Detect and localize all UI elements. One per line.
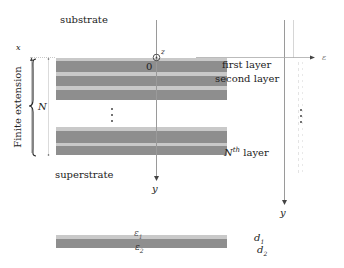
axis-z-label: z xyxy=(161,47,165,57)
nth-layer-N: N xyxy=(224,147,233,158)
eps1-label: ε1 xyxy=(134,228,143,242)
axis-y-label-center: y xyxy=(152,184,158,194)
d2-label: d2 xyxy=(257,245,267,259)
axis-x-label: x xyxy=(16,43,21,53)
axis-eps-label: ε xyxy=(322,53,326,63)
substrate-label: substrate xyxy=(60,15,108,25)
first-layer-label: first layer xyxy=(222,60,271,70)
second-layer-label: second layer xyxy=(215,74,279,84)
nth-layer-sup: th xyxy=(233,146,240,154)
eps2-label: ε2 xyxy=(135,242,144,256)
eps1-subscript: 1 xyxy=(139,233,143,240)
d2-subscript: 2 xyxy=(263,250,267,257)
finite-extension-label: Finite extension xyxy=(13,66,23,148)
nth-layer-label: Nth layer xyxy=(224,145,269,158)
axes-graphic xyxy=(0,0,344,268)
origin-label: 0 xyxy=(146,62,152,72)
superstrate-label: superstrate xyxy=(55,170,114,180)
N-label: N xyxy=(38,102,47,112)
axis-y-label-right: y xyxy=(280,208,286,218)
nth-layer-word: layer xyxy=(243,147,269,158)
eps2-subscript: 2 xyxy=(140,247,144,254)
